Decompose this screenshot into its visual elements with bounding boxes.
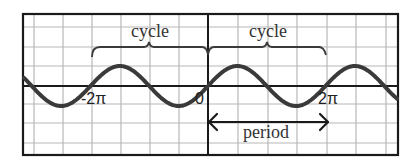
tick-label-neg-two-pi: -2π bbox=[81, 90, 106, 107]
tick-label-zero: 0 bbox=[195, 90, 204, 107]
cycle-label-left: cycle bbox=[131, 21, 169, 41]
sine-wave-diagram: cycle cycle -2π 0 2π period bbox=[0, 0, 416, 165]
tick-label-two-pi: 2π bbox=[318, 90, 338, 107]
cycle-brace-right bbox=[208, 42, 326, 55]
cycle-label-right: cycle bbox=[249, 21, 287, 41]
period-label: period bbox=[243, 122, 289, 142]
